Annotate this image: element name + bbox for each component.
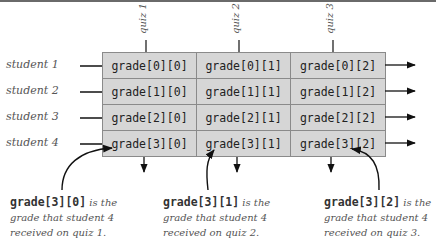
note-code: grade[3][2]: [324, 195, 400, 209]
note-code: grade[3][0]: [10, 195, 86, 209]
note-text: received on quiz 1.: [10, 227, 106, 238]
callout-note-3: grade[3][2] is the grade that student 4 …: [324, 195, 431, 240]
note-text: received on quiz 3.: [324, 227, 420, 238]
note-code: grade[3][1]: [163, 195, 239, 209]
note-text: grade that student 4: [10, 212, 114, 223]
callout-note-1: grade[3][0] is the grade that student 4 …: [10, 195, 117, 240]
note-text: received on quiz 2.: [163, 227, 259, 238]
note-text: is the: [400, 197, 431, 208]
note-text: is the: [86, 197, 117, 208]
note-text: is the: [239, 197, 270, 208]
note-text: grade that student 4: [163, 212, 267, 223]
note-text: grade that student 4: [324, 212, 428, 223]
callout-note-2: grade[3][1] is the grade that student 4 …: [163, 195, 270, 240]
